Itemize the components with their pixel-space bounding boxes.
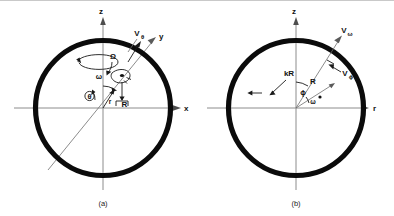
panel-a-z-axis-label: z xyxy=(99,7,103,16)
panel-b-caption: (b) xyxy=(291,199,301,208)
panel-b-v-omega-sub: ω xyxy=(347,31,352,37)
panel-a-x-axis-label: x xyxy=(184,104,189,113)
panel-a-theta-label: θ xyxy=(87,92,91,101)
panel-a-caption: (a) xyxy=(98,199,108,208)
panel-b-reference-point xyxy=(318,95,321,98)
panel-a-R-label: R xyxy=(122,100,128,109)
panel-b-v-omega-base: V xyxy=(341,26,347,35)
panel-b-kR-label: kR xyxy=(284,69,294,78)
panel-b-v-phi-base: V xyxy=(342,69,348,78)
figure-canvas: z x y Ω xyxy=(0,0,394,216)
panel-b-z-axis-label: z xyxy=(292,7,296,16)
panel-b-phi-label: ϕ xyxy=(300,88,306,97)
panel-a-omega-label: ω xyxy=(96,72,103,81)
panel-a-y-axis-label: y xyxy=(159,32,164,41)
panel-b-omega-label: ω xyxy=(310,98,316,105)
panel-b-R-label: R xyxy=(310,77,316,86)
panel-a-v-theta-sub: θ xyxy=(141,34,144,40)
panel-a-big-omega-label: Ω xyxy=(110,52,116,61)
panel-b-v-phi-sub: ϕ xyxy=(349,74,354,80)
panel-b-r-axis-label: r xyxy=(373,104,376,113)
panel-a-v-theta-base: V xyxy=(134,29,140,38)
